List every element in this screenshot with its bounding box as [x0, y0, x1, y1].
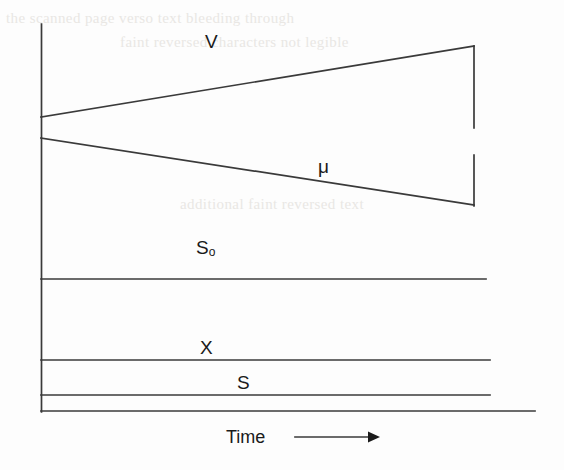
label-biomass: X: [200, 338, 213, 357]
label-feed-substrate: So: [196, 238, 215, 257]
label-substrate: S: [237, 373, 250, 392]
figure-container: the scanned page verso text bleeding thr…: [0, 0, 564, 470]
plot-canvas: [0, 0, 564, 470]
curve-volume: [41, 46, 474, 117]
label-mu: μ: [318, 157, 329, 176]
x-axis-title: Time: [226, 428, 265, 446]
label-feed-substrate-subscript: o: [209, 245, 216, 259]
label-volume: V: [205, 32, 218, 51]
label-feed-substrate-base: S: [196, 237, 209, 258]
curve-mu: [41, 138, 474, 205]
arrow-right-icon: [368, 432, 380, 443]
